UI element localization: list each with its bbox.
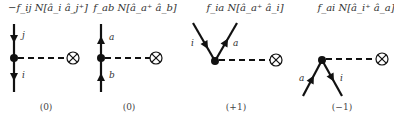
arrow-icon (201, 40, 212, 51)
line-label-i: i (22, 70, 25, 80)
excitation-level-2: (0) (123, 102, 136, 112)
diagram-2 (97, 24, 162, 92)
line-label-i: i (191, 38, 194, 48)
line-label-a: a (299, 73, 304, 83)
arrow-up-icon (97, 73, 105, 81)
operator-cross-icon (376, 53, 388, 65)
vertex-dot (97, 54, 105, 62)
line-label-i: i (340, 73, 343, 83)
line-label-a: a (233, 38, 238, 48)
arrow-down-icon (10, 35, 18, 43)
line-label-a: a (109, 32, 114, 42)
diagram-4 (303, 53, 388, 96)
arrow-down-icon (10, 73, 18, 81)
arrow-icon (307, 74, 318, 85)
arrow-up-icon (97, 36, 105, 44)
excitation-level-1: (0) (40, 102, 53, 112)
excitation-level-4: (−1) (332, 102, 352, 112)
operator-cross-icon (150, 52, 162, 64)
arrow-icon (327, 73, 338, 84)
arrow-icon (221, 37, 232, 48)
vertex-dot (10, 54, 18, 62)
diagram-3-title: f_ia N[â_a⁺ â_i] (206, 2, 283, 13)
diagram-1 (10, 24, 79, 92)
line-label-j: j (22, 30, 25, 40)
diagram-4-title: f_ai N[â_i⁺ â_a] (317, 2, 394, 13)
diagram-2-title: f_ab N[â_a⁺ â_b] (93, 2, 177, 13)
vertex-dot (318, 56, 326, 64)
diagram-1-title: −f_ij N[â_i â_j⁺] (8, 2, 88, 13)
excitation-level-3: (+1) (226, 102, 246, 112)
fock-operator-diagrams: −f_ij N[â_i â_j⁺] f_ab N[â_a⁺ â_b] f_ia … (0, 0, 394, 120)
vertex-dot (211, 57, 219, 65)
line-label-b: b (109, 70, 115, 80)
operator-cross-icon (67, 52, 79, 64)
operator-cross-icon (270, 54, 282, 66)
